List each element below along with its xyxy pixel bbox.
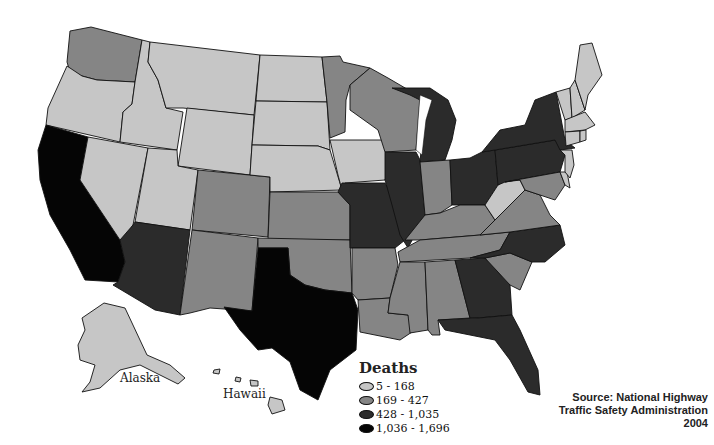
state-florida (438, 315, 540, 395)
legend: Deaths 5 - 168 169 - 427 428 - 1,035 1,0… (359, 359, 450, 435)
state-north-dakota (256, 55, 327, 102)
legend-item: 428 - 1,035 (359, 407, 450, 421)
legend-item: 169 - 427 (359, 393, 450, 407)
state-wyoming (178, 108, 254, 175)
state-colorado (192, 170, 270, 237)
legend-swatch (359, 410, 374, 419)
legend-swatch (359, 396, 374, 405)
legend-title: Deaths (359, 359, 450, 377)
state-south-dakota (252, 101, 330, 150)
source-year: 2004 (559, 417, 708, 430)
source-note: Source: National Highway Traffic Safety … (559, 391, 708, 430)
source-line-1: Source: National Highway (559, 391, 708, 404)
state-connecticut (565, 131, 580, 146)
state-rhode-island (580, 130, 586, 142)
label-hawaii: Hawaii (223, 387, 266, 401)
us-map (0, 0, 714, 445)
legend-label: 428 - 1,035 (376, 408, 439, 421)
source-line-2: Traffic Safety Administration (559, 404, 708, 417)
state-new-mexico (180, 230, 258, 315)
state-arkansas (352, 248, 398, 300)
legend-label: 169 - 427 (376, 394, 429, 407)
legend-swatch (359, 424, 374, 433)
state-wisconsin (350, 68, 420, 152)
state-arizona (113, 222, 190, 315)
label-alaska: Alaska (120, 371, 160, 385)
legend-label: 5 - 168 (376, 380, 415, 393)
state-montana (148, 42, 260, 115)
legend-swatch (359, 382, 374, 391)
legend-label: 1,036 - 1,696 (376, 422, 450, 435)
state-indiana (420, 160, 452, 215)
legend-item: 1,036 - 1,696 (359, 421, 450, 435)
legend-item: 5 - 168 (359, 379, 450, 393)
state-kansas (268, 192, 350, 240)
